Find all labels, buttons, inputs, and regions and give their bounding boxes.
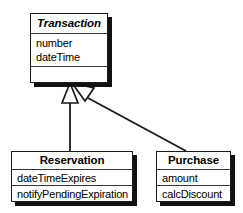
class-name-reservation: Reservation [17, 153, 127, 168]
class-name-transaction: Transaction [36, 16, 102, 31]
class-name-compartment-transaction: Transaction [31, 14, 107, 33]
class-name-compartment-reservation: Reservation [12, 152, 132, 169]
uml-class-reservation[interactable]: Reservation dateTimeExpires notifyPendin… [11, 151, 133, 202]
operations-compartment-purchase: calcDiscount [157, 185, 230, 202]
attribute-transaction-datetime: dateTime [36, 50, 102, 64]
class-name-purchase: Purchase [162, 153, 225, 168]
operations-compartment-transaction [31, 66, 107, 82]
generalization-line-purchase [88, 98, 186, 151]
generalization-reservation[interactable] [62, 83, 78, 151]
operation-purchase-calcdiscount: calcDiscount [162, 187, 225, 201]
attributes-compartment-purchase: amount [157, 169, 230, 185]
uml-class-transaction[interactable]: Transaction number dateTime [30, 13, 108, 83]
uml-class-diagram: Transaction number dateTime Reservation … [0, 0, 243, 213]
attribute-reservation-datetimeexpires: dateTimeExpires [17, 171, 127, 185]
attribute-purchase-amount: amount [162, 171, 225, 185]
attributes-compartment-transaction: number dateTime [31, 33, 107, 66]
class-name-compartment-purchase: Purchase [157, 152, 230, 169]
generalization-purchase[interactable] [72, 83, 186, 151]
attributes-compartment-reservation: dateTimeExpires [12, 169, 132, 185]
operation-reservation-notifypendingexpiration: notifyPendingExpiration [17, 187, 127, 201]
operations-compartment-reservation: notifyPendingExpiration [12, 185, 132, 202]
uml-class-purchase[interactable]: Purchase amount calcDiscount [156, 151, 231, 202]
attribute-transaction-number: number [36, 36, 102, 50]
